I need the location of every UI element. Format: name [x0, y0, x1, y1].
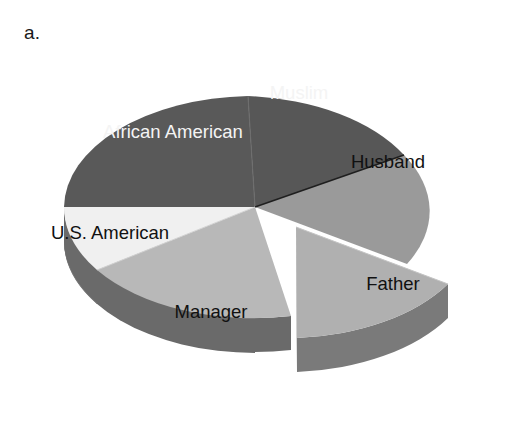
slice-label-husband: Husband	[351, 151, 425, 172]
slice-label-father: Father	[366, 273, 419, 294]
slice-label-african-american: African American	[103, 121, 243, 142]
slice-label-manager: Manager	[174, 301, 247, 322]
slice-african-american-face	[64, 96, 255, 207]
slice-label-muslim: Muslim	[270, 82, 329, 103]
slice-label-us-american: U.S. American	[51, 222, 169, 243]
pie-chart-figure: a.	[0, 0, 532, 441]
pie-chart-svg: African American Muslim Husband Father M…	[0, 0, 532, 441]
